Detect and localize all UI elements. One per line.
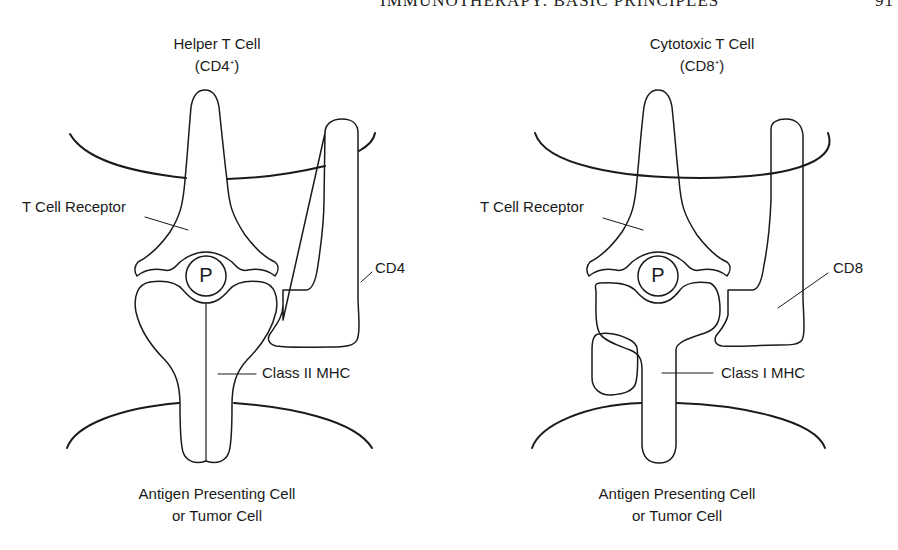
helper-panel [67, 90, 375, 463]
apc-label-line1-right: Antigen Presenting Cell [557, 483, 797, 505]
cd8-shape [715, 119, 804, 346]
cytotoxic-title: Cytotoxic T Cell [592, 34, 812, 53]
apc-label-line1: Antigen Presenting Cell [97, 483, 337, 505]
peptide-label: P [191, 264, 221, 287]
cytotoxic-panel [532, 90, 830, 463]
helper-title: Helper T Cell [107, 34, 327, 53]
cd4-shape [268, 119, 359, 347]
cytotoxic-panel-title: Cytotoxic T Cell (CD8+) [592, 34, 812, 75]
tcr-label-right: T Cell Receptor [480, 198, 584, 215]
t-cell-membrane-left [70, 134, 186, 178]
class-i-mhc-label: Class I MHC [721, 364, 805, 381]
apc-label-line2: or Tumor Cell [97, 505, 337, 527]
t-cell-membrane-right-panel [535, 133, 830, 178]
t-cell-receptor-shape-right [587, 90, 730, 276]
t-cell-membrane-right [359, 133, 375, 151]
t-cell-receptor-shape [135, 90, 278, 276]
cytotoxic-subtitle: (CD8+) [592, 53, 812, 75]
apc-label-line2-right: or Tumor Cell [557, 505, 797, 527]
apc-membrane-right [234, 403, 372, 448]
peptide-label-right: P [643, 264, 673, 287]
helper-subtitle: (CD4+) [107, 53, 327, 75]
apc-membrane-right-right-panel [677, 403, 825, 448]
cytotoxic-bottom-label: Antigen Presenting Cell or Tumor Cell [557, 483, 797, 527]
apc-membrane-left [67, 403, 179, 448]
apc-membrane-left-right-panel [532, 403, 641, 448]
t-cell-membrane-mid [227, 166, 325, 179]
helper-bottom-label: Antigen Presenting Cell or Tumor Cell [97, 483, 337, 527]
tcr-leader-line [145, 217, 188, 230]
tcr-leader-line-right [603, 218, 643, 230]
cd4-label: CD4 [375, 259, 405, 276]
cd8-label: CD8 [833, 259, 863, 276]
class-ii-mhc-label: Class II MHC [262, 364, 350, 381]
cd4-leader-line [361, 272, 372, 282]
beta2-microglobulin-shape [592, 333, 638, 395]
tcr-label: T Cell Receptor [22, 198, 126, 215]
helper-panel-title: Helper T Cell (CD4+) [107, 34, 327, 75]
immune-synapse-diagram [0, 0, 898, 550]
